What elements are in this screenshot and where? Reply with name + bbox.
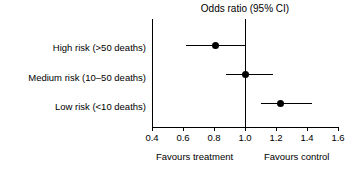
- point-estimate-marker: [242, 71, 249, 78]
- x-tick-label: 1.6: [325, 132, 351, 143]
- x-tick: [307, 127, 308, 131]
- point-estimate-marker: [212, 42, 219, 49]
- x-tick-label: 0.8: [201, 132, 227, 143]
- footer-label-favours-treatment: Favours treatment: [156, 151, 233, 162]
- x-tick: [214, 127, 215, 131]
- x-tick: [338, 127, 339, 131]
- x-tick-label: 1.4: [294, 132, 320, 143]
- x-tick: [245, 127, 246, 131]
- x-tick-label: 1.2: [263, 132, 289, 143]
- row-label-medium-risk: Medium risk (10–50 deaths): [0, 72, 146, 83]
- footer-label-favours-control: Favours control: [264, 151, 329, 162]
- x-tick-label: 1.0: [232, 132, 258, 143]
- chart-title: Odds ratio (95% CI): [152, 3, 338, 15]
- row-label-low-risk: Low risk (<10 deaths): [0, 101, 146, 112]
- point-estimate-marker: [277, 100, 284, 107]
- x-tick-label: 0.4: [139, 132, 165, 143]
- confidence-interval-line: [226, 74, 273, 75]
- confidence-interval-line: [261, 103, 312, 104]
- x-tick: [183, 127, 184, 131]
- x-tick: [152, 127, 153, 131]
- x-tick: [276, 127, 277, 131]
- y-axis-line: [152, 19, 153, 127]
- row-label-high-risk: High risk (>50 deaths): [0, 42, 146, 53]
- forest-plot: Odds ratio (95% CI) High risk (>50 death…: [0, 0, 362, 172]
- x-tick-label: 0.6: [170, 132, 196, 143]
